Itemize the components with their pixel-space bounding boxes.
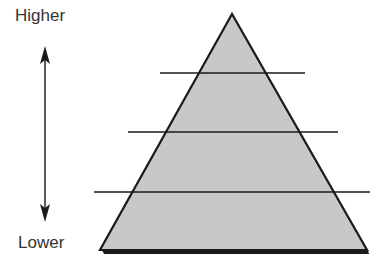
vertical-double-arrow-icon (40, 46, 50, 222)
pyramid-diagram (0, 0, 387, 269)
